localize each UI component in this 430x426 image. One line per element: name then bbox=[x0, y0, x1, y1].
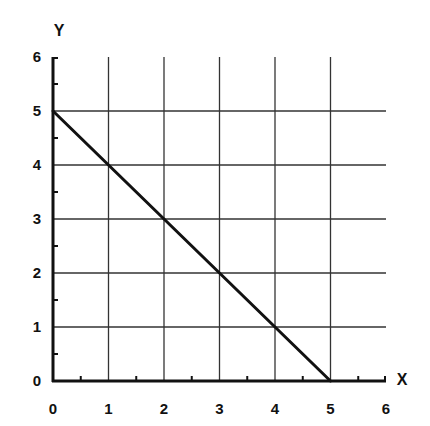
line-chart: 0123456 0123456 X Y bbox=[0, 0, 430, 426]
x-tick-label: 3 bbox=[215, 400, 223, 417]
y-tick-label: 3 bbox=[33, 210, 41, 227]
x-axis-label: X bbox=[397, 371, 408, 388]
x-tick-label: 0 bbox=[49, 400, 57, 417]
y-tick-label: 4 bbox=[33, 156, 42, 173]
series-line bbox=[53, 111, 331, 381]
y-tick-label: 5 bbox=[33, 102, 41, 119]
y-tick-label: 6 bbox=[33, 48, 41, 65]
y-tick-label: 0 bbox=[33, 372, 41, 389]
x-tick-label: 2 bbox=[160, 400, 168, 417]
y-tick-label: 1 bbox=[33, 318, 41, 335]
x-tick-label: 4 bbox=[271, 400, 280, 417]
x-tick-label: 6 bbox=[382, 400, 390, 417]
x-tick-label: 1 bbox=[104, 400, 112, 417]
x-tick-label: 5 bbox=[326, 400, 334, 417]
y-axis-label: Y bbox=[54, 22, 65, 39]
data-series bbox=[53, 111, 331, 381]
y-tick-labels: 0123456 bbox=[33, 48, 42, 389]
minor-ticks bbox=[53, 84, 358, 381]
grid-lines bbox=[53, 57, 386, 381]
x-tick-labels: 0123456 bbox=[49, 400, 390, 417]
y-tick-label: 2 bbox=[33, 264, 41, 281]
